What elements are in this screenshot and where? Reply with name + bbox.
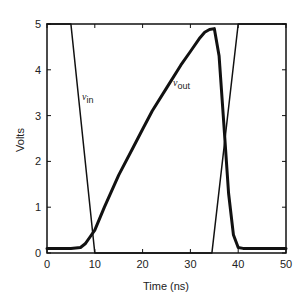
y-tick-label: 3 bbox=[35, 110, 41, 122]
axis-tick-labels: 01020304050012345 bbox=[35, 18, 292, 270]
series-lines bbox=[47, 24, 286, 253]
x-tick-label: 40 bbox=[232, 258, 244, 270]
y-tick-label: 5 bbox=[35, 18, 41, 30]
x-tick-label: 50 bbox=[280, 258, 292, 270]
y-tick-label: 4 bbox=[35, 64, 41, 76]
x-tick-label: 30 bbox=[184, 258, 196, 270]
y-tick-label: 1 bbox=[35, 201, 41, 213]
y-tick-label: 0 bbox=[35, 247, 41, 259]
x-tick-label: 20 bbox=[136, 258, 148, 270]
x-axis-label: Time (ns) bbox=[143, 280, 189, 292]
v-in-label: vin bbox=[82, 91, 93, 105]
v-in-line bbox=[47, 24, 286, 253]
v-out-label: vout bbox=[173, 77, 190, 91]
y-tick-label: 2 bbox=[35, 155, 41, 167]
y-axis-label: Volts bbox=[14, 128, 26, 152]
transient-response-chart: 01020304050012345 vin vout Time (ns) Vol… bbox=[0, 0, 306, 299]
x-tick-label: 0 bbox=[44, 258, 50, 270]
x-tick-label: 10 bbox=[89, 258, 101, 270]
